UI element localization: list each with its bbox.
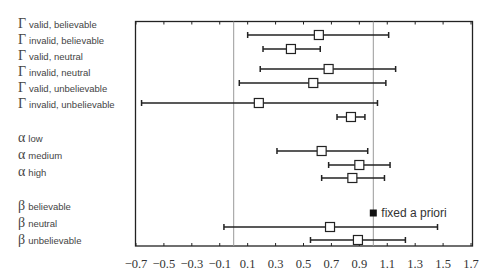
reference-lines — [234, 22, 374, 247]
x-tick-label: 1.1 — [379, 257, 395, 271]
x-tick-label: 0.5 — [296, 257, 312, 271]
x-tick-label: 0.9 — [352, 257, 368, 271]
estimate-row — [277, 147, 368, 156]
forest-plot: −0.7−0.5−0.3−0.10.10.30.50.70.91.11.31.5… — [0, 0, 492, 274]
estimate-row — [263, 45, 320, 54]
x-axis-ticks: −0.7−0.5−0.3−0.10.10.30.50.70.91.11.31.5… — [125, 22, 479, 272]
x-tick-label: 0.3 — [268, 257, 284, 271]
x-tick-label: 1.3 — [407, 257, 423, 271]
estimate-row — [337, 113, 365, 122]
estimate-row — [224, 223, 438, 232]
x-tick-label: −0.7 — [125, 257, 148, 271]
estimate-row — [260, 65, 395, 74]
estimate-row — [248, 31, 389, 40]
point-estimate-marker — [326, 223, 335, 232]
point-estimate-marker — [309, 79, 318, 88]
point-estimate-marker — [286, 45, 295, 54]
x-tick-label: 1.7 — [463, 257, 479, 271]
x-tick-label: 0.7 — [324, 257, 340, 271]
point-estimate-marker — [346, 113, 355, 122]
x-tick-label: −0.5 — [153, 257, 176, 271]
x-tick-label: −0.1 — [208, 257, 231, 271]
point-estimate-marker — [254, 99, 263, 108]
fixed-estimate-marker — [370, 210, 377, 217]
point-estimate-marker — [314, 31, 323, 40]
point-estimate-marker — [353, 236, 362, 245]
point-estimate-marker — [355, 161, 364, 170]
estimate-row — [142, 99, 378, 108]
x-tick-label: 0.1 — [240, 257, 256, 271]
estimate-row — [322, 174, 385, 183]
point-estimate-marker — [348, 174, 357, 183]
estimate-row — [310, 236, 405, 245]
estimate-row — [239, 79, 386, 88]
estimate-row — [370, 210, 377, 217]
x-tick-label: 1.5 — [435, 257, 451, 271]
x-tick-label: −0.3 — [180, 257, 203, 271]
point-estimate-marker — [317, 147, 326, 156]
point-estimate-marker — [324, 65, 333, 74]
estimate-row — [329, 161, 390, 170]
fixed-a-priori-annotation: fixed a priori — [381, 206, 446, 220]
